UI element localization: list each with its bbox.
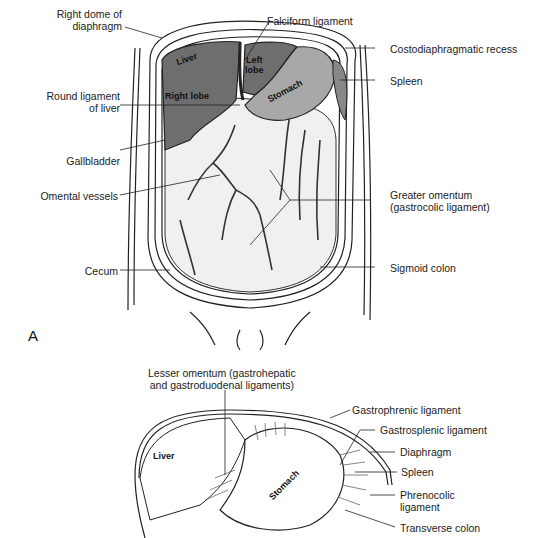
label-cecum: Cecum: [40, 265, 118, 277]
label-costodiaphragmatic-recess: Costodiaphragmatic recess: [390, 43, 517, 55]
label-gastrosplenic-ligament: Gastrosplenic ligament: [380, 424, 487, 436]
label-lesser-omentum: Lesser omentum (gastrohepatic and gastro…: [148, 367, 296, 391]
label-transverse-colon: Transverse colon: [400, 522, 480, 534]
left-lobe-inner-label: Left lobe: [245, 55, 264, 75]
label-phrenocolic-ligament: Phrenocolic ligament: [400, 489, 455, 513]
label-gastrophrenic-ligament: Gastrophrenic ligament: [352, 404, 461, 416]
label-spleen-b: Spleen: [401, 466, 434, 478]
right-lobe-inner-label: Right lobe: [165, 91, 209, 101]
label-gallbladder: Gallbladder: [40, 155, 120, 167]
label-right-dome-of-diaphragm: Right dome of diaphragm: [30, 8, 122, 32]
label-falciform-ligament: Falciform ligament: [267, 15, 353, 27]
label-round-ligament-of-liver: Round ligament of liver: [20, 90, 120, 114]
label-omental-vessels: Omental vessels: [20, 190, 118, 202]
label-spleen: Spleen: [390, 75, 423, 87]
liver-b-inner-label: Liver: [153, 451, 175, 461]
falciform-shape: [240, 42, 243, 100]
label-diaphragm: Diaphragm: [400, 446, 451, 458]
label-greater-omentum: Greater omentum (gastrocolic ligament): [390, 189, 490, 213]
panel-letter-a: A: [28, 327, 38, 344]
label-sigmoid-colon: Sigmoid colon: [390, 262, 456, 274]
